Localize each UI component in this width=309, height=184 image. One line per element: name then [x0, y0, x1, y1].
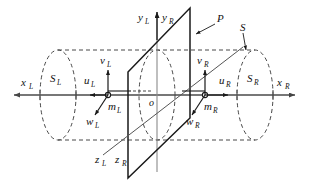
u-right-sub: R [225, 80, 231, 89]
plane-p-label: P [216, 12, 224, 24]
v-left-sub: L [106, 60, 111, 69]
label-w-left: w L [86, 115, 99, 130]
label-u-right: u R [219, 74, 231, 89]
label-v-left: v L [100, 54, 111, 69]
x-left-sub: L [28, 82, 33, 91]
w-right-base: w [186, 115, 194, 127]
y-right-sub: R [168, 17, 174, 26]
z-right-sub: R [121, 159, 127, 168]
label-z-left: z L [94, 153, 106, 168]
label-u-left: u L [84, 74, 95, 89]
x-right-sub: R [284, 82, 290, 91]
v-right-base: v [197, 54, 202, 66]
label-v-right: v R [197, 54, 209, 69]
s-right-base: S [247, 72, 253, 84]
y-left-base: y [137, 11, 143, 23]
origin-label: o [149, 97, 154, 108]
u-right-base: u [219, 74, 225, 86]
s-right-sub: R [253, 78, 259, 87]
w-left-base: w [86, 115, 94, 127]
figure-container: x L x R y L y R z L z R u [0, 0, 309, 184]
z-left-sub: L [101, 159, 106, 168]
m-right-sub: R [212, 106, 218, 115]
stereo-vision-diagram: x L x R y L y R z L z R u [0, 0, 309, 184]
m-left-sub: L [116, 106, 121, 115]
label-s-left: S L [50, 72, 61, 87]
w-left-axis-arrow [95, 95, 108, 115]
x-right-base: x [276, 76, 282, 88]
x-left-base: x [20, 76, 26, 88]
label-m-right: m R [204, 100, 218, 115]
m-right-base: m [204, 100, 212, 112]
label-s-right: S R [247, 72, 259, 87]
label-z-right: z R [114, 153, 127, 168]
z-left-base: z [94, 153, 100, 165]
plane-p-leader [196, 24, 215, 34]
label-m-left: m L [108, 100, 121, 115]
label-y-left: y L [137, 11, 149, 26]
v-right-sub: R [203, 60, 209, 69]
surface-s-leader [243, 33, 246, 50]
label-x-right: x R [276, 76, 290, 91]
u-left-sub: L [90, 80, 95, 89]
z-right-base: z [114, 153, 120, 165]
w-left-sub: L [94, 121, 99, 130]
v-left-base: v [100, 54, 105, 66]
surface-s-label: S [240, 21, 246, 33]
label-y-right: y R [161, 11, 174, 26]
y-right-base: y [161, 11, 167, 23]
surface-s-ray [103, 47, 243, 155]
label-x-left: x L [20, 76, 33, 91]
s-left-base: S [50, 72, 56, 84]
y-left-sub: L [144, 17, 149, 26]
w-right-sub: R [194, 121, 200, 130]
plane-p-outline [128, 8, 190, 178]
m-left-base: m [108, 100, 116, 112]
u-left-base: u [84, 74, 90, 86]
label-w-right: w R [186, 115, 200, 130]
s-left-sub: L [56, 78, 61, 87]
